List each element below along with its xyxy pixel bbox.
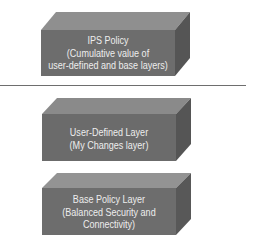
user-defined-layer-box: User-Defined Layer (My Changes layer) xyxy=(0,90,256,166)
base-policy-layer-box: Base Policy Layer (Balanced Security and… xyxy=(0,166,256,242)
divider-line xyxy=(0,85,246,86)
user-defined-layer-label: User-Defined Layer (My Changes layer) xyxy=(43,126,175,151)
ips-policy-box: IPS Policy (Cumulative value of user-def… xyxy=(0,0,256,86)
ips-policy-label: IPS Policy (Cumulative value of user-def… xyxy=(42,34,174,72)
base-policy-layer-label: Base Policy Layer (Balanced Security and… xyxy=(43,193,175,231)
